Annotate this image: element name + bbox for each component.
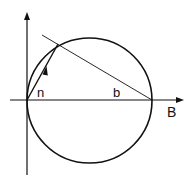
diagram-canvas: n b B [0,0,188,185]
chord-line-b [42,35,152,100]
horizontal-axis-arrow-icon [176,97,184,103]
vertical-axis-arrow-icon [24,12,30,20]
label-n: n [37,85,44,100]
label-axis-b: B [167,104,176,120]
label-b: b [113,85,120,100]
